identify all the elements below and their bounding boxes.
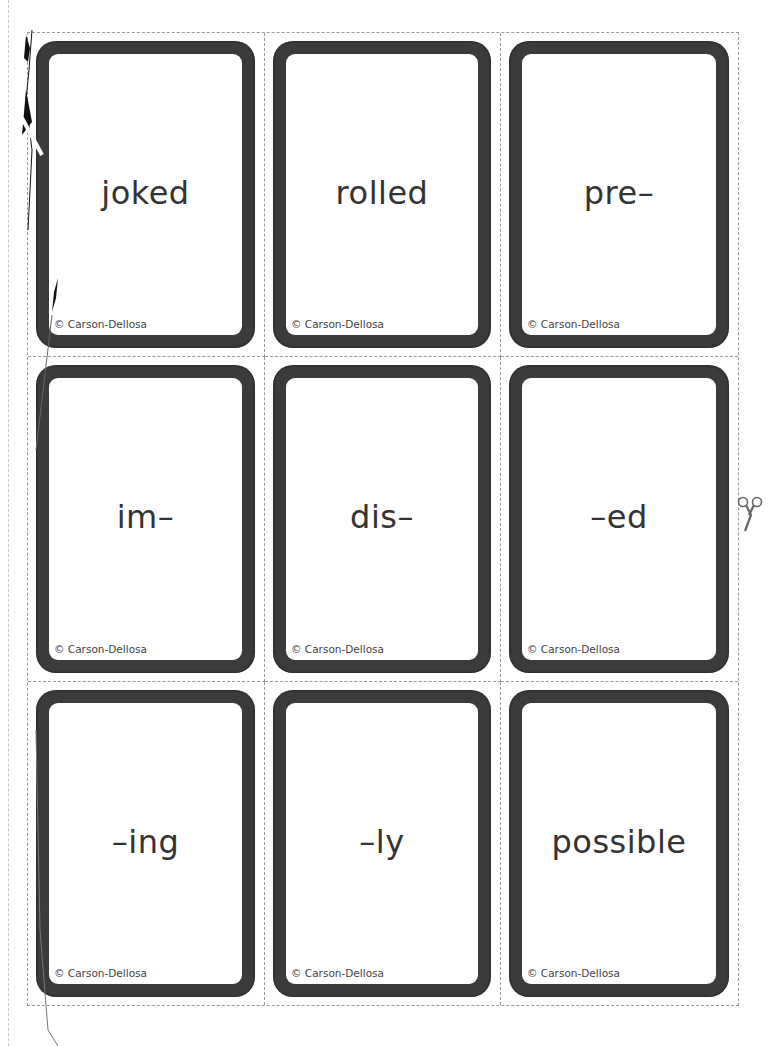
flashcard: rolled © Carson-Dellosa xyxy=(273,41,491,348)
card-cell: possible © Carson-Dellosa xyxy=(501,682,738,1005)
card-word: rolled xyxy=(286,173,478,211)
scissors-icon xyxy=(737,495,763,535)
card-face: –ing © Carson-Dellosa xyxy=(49,703,242,984)
card-cell: im– © Carson-Dellosa xyxy=(28,357,265,682)
card-cell: dis– © Carson-Dellosa xyxy=(265,357,501,682)
card-cell: joked © Carson-Dellosa xyxy=(28,33,265,357)
card-face: im– © Carson-Dellosa xyxy=(49,378,242,660)
card-word: –ed xyxy=(522,498,716,536)
page-margin-line xyxy=(8,0,9,1046)
card-cell: –ed © Carson-Dellosa xyxy=(501,357,738,682)
card-face: joked © Carson-Dellosa xyxy=(49,54,242,335)
flashcard-sheet: joked © Carson-Dellosa rolled © Carson-D… xyxy=(27,32,739,1006)
card-face: dis– © Carson-Dellosa xyxy=(286,378,478,660)
flashcard: –ly © Carson-Dellosa xyxy=(273,690,491,997)
card-cell: –ly © Carson-Dellosa xyxy=(265,682,501,1005)
card-face: rolled © Carson-Dellosa xyxy=(286,54,478,335)
flashcard: im– © Carson-Dellosa xyxy=(36,365,255,673)
flashcard: pre– © Carson-Dellosa xyxy=(509,41,729,348)
card-word: possible xyxy=(522,822,716,860)
card-word: dis– xyxy=(286,498,478,536)
flashcard: possible © Carson-Dellosa xyxy=(509,690,729,997)
card-copyright: © Carson-Dellosa xyxy=(527,967,620,979)
card-copyright: © Carson-Dellosa xyxy=(54,967,147,979)
card-face: possible © Carson-Dellosa xyxy=(522,703,716,984)
card-copyright: © Carson-Dellosa xyxy=(291,318,384,330)
card-word: –ly xyxy=(286,822,478,860)
card-copyright: © Carson-Dellosa xyxy=(54,643,147,655)
card-copyright: © Carson-Dellosa xyxy=(527,318,620,330)
flashcard: –ed © Carson-Dellosa xyxy=(509,365,729,673)
card-word: –ing xyxy=(49,822,242,860)
card-cell: –ing © Carson-Dellosa xyxy=(28,682,265,1005)
card-word: pre– xyxy=(522,173,716,211)
flashcard: dis– © Carson-Dellosa xyxy=(273,365,491,673)
card-word: joked xyxy=(49,173,242,211)
card-face: –ly © Carson-Dellosa xyxy=(286,703,478,984)
flashcard: –ing © Carson-Dellosa xyxy=(36,690,255,997)
card-cell: pre– © Carson-Dellosa xyxy=(501,33,738,357)
card-cell: rolled © Carson-Dellosa xyxy=(265,33,501,357)
flashcard: joked © Carson-Dellosa xyxy=(36,41,255,348)
card-copyright: © Carson-Dellosa xyxy=(54,318,147,330)
card-copyright: © Carson-Dellosa xyxy=(291,643,384,655)
card-word: im– xyxy=(49,498,242,536)
card-copyright: © Carson-Dellosa xyxy=(527,643,620,655)
card-face: –ed © Carson-Dellosa xyxy=(522,378,716,660)
card-face: pre– © Carson-Dellosa xyxy=(522,54,716,335)
card-copyright: © Carson-Dellosa xyxy=(291,967,384,979)
